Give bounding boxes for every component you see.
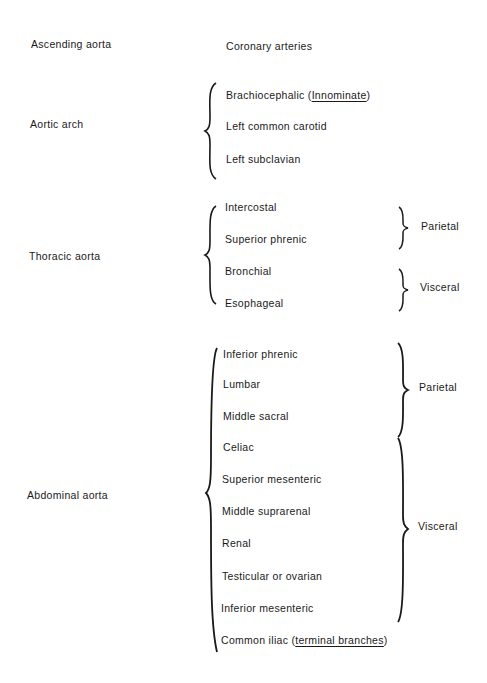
branch-coronary-arteries: Coronary arteries: [226, 40, 312, 52]
branch-esophageal: Esophageal: [225, 297, 283, 309]
group-label-thoracic-parietal: Parietal: [421, 220, 459, 232]
left-brace-abdominal-aorta: [204, 347, 218, 653]
section-label-ascending-aorta: Ascending aorta: [31, 38, 111, 50]
right-brace-abdominal-visceral: [397, 437, 411, 623]
section-label-thoracic-aorta: Thoracic aorta: [29, 250, 100, 262]
right-brace-thoracic-parietal: [398, 206, 410, 250]
branch-bronchial: Bronchial: [225, 265, 271, 277]
branch-left-common-carotid: Left common carotid: [226, 120, 327, 132]
right-brace-thoracic-visceral: [398, 268, 410, 312]
branch-brachiocephalic: Brachiocephalic (Innominate): [226, 89, 370, 101]
section-label-aortic-arch: Aortic arch: [30, 118, 83, 130]
branch-left-subclavian: Left subclavian: [226, 153, 301, 165]
branch-inferior-phrenic: Inferior phrenic: [223, 348, 298, 360]
branch-intercostal: Intercostal: [225, 201, 277, 213]
group-label-abdominal-visceral: Visceral: [418, 520, 458, 532]
branch-superior-mesenteric: Superior mesenteric: [222, 473, 322, 485]
branch-testicular-or-ovarian: Testicular or ovarian: [222, 570, 322, 582]
branch-middle-sacral: Middle sacral: [223, 410, 289, 422]
group-label-thoracic-visceral: Visceral: [420, 281, 460, 293]
right-brace-abdominal-parietal: [397, 342, 411, 438]
branch-common-iliac: Common iliac (terminal branches): [221, 634, 388, 646]
branch-superior-phrenic: Superior phrenic: [225, 233, 307, 245]
left-brace-thoracic-aorta: [204, 205, 218, 305]
left-brace-aortic-arch: [204, 82, 218, 180]
branch-middle-suprarenal: Middle suprarenal: [222, 505, 311, 517]
group-label-abdominal-parietal: Parietal: [419, 381, 457, 393]
underlined-note-innominate: Innominate: [312, 89, 367, 101]
section-label-abdominal-aorta: Abdominal aorta: [27, 489, 108, 501]
branch-inferior-mesenteric: Inferior mesenteric: [221, 602, 314, 614]
branch-lumbar: Lumbar: [223, 378, 260, 390]
branch-celiac: Celiac: [223, 441, 254, 453]
underlined-note-terminal-branches: terminal branches: [295, 634, 384, 646]
branch-renal: Renal: [222, 537, 251, 549]
